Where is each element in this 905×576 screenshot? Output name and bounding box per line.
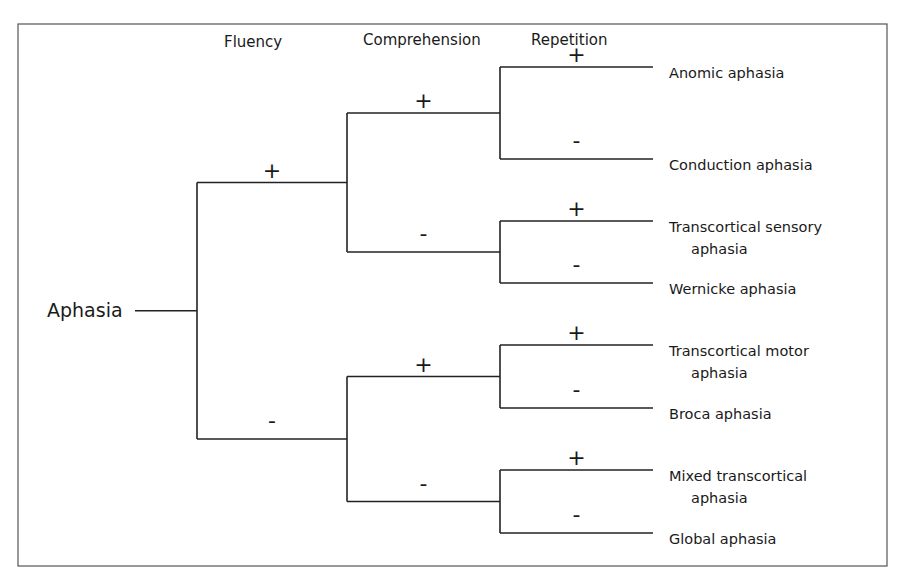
- leaf-label: Wernicke aphasia: [669, 281, 796, 297]
- header-fluency: Fluency: [224, 33, 282, 51]
- header-comprehension: Comprehension: [363, 31, 481, 49]
- sign-minus-comprehension: -: [420, 221, 428, 246]
- sign-minus-repetition: -: [573, 377, 581, 402]
- sign-plus-comprehension: +: [414, 352, 432, 377]
- sign-plus-repetition: +: [567, 196, 585, 221]
- aphasia-decision-tree: Fluency Comprehension Repetition Aphasia…: [0, 0, 905, 576]
- leaf-label: Mixed transcortical: [669, 468, 807, 484]
- sign-minus-repetition: -: [573, 128, 581, 153]
- leaf-label-continuation: aphasia: [691, 241, 748, 257]
- sign-minus-repetition: -: [573, 252, 581, 277]
- leaf-label: Conduction aphasia: [669, 157, 813, 173]
- sign-plus-repetition: +: [567, 320, 585, 345]
- sign-plus-repetition: +: [567, 42, 585, 67]
- sign-plus-comprehension: +: [414, 88, 432, 113]
- leaf-label: Global aphasia: [669, 531, 777, 547]
- leaf-label-continuation: aphasia: [691, 365, 748, 381]
- leaf-label-continuation: aphasia: [691, 490, 748, 506]
- leaf-label: Broca aphasia: [669, 406, 772, 422]
- sign-minus-repetition: -: [573, 502, 581, 527]
- sign-plus-repetition: +: [567, 445, 585, 470]
- leaf-label: Transcortical sensory: [668, 219, 822, 235]
- sign-minus-comprehension: -: [420, 471, 428, 496]
- sign-minus-fluency: -: [268, 408, 276, 433]
- leaf-label: Transcortical motor: [668, 343, 809, 359]
- root-label-aphasia: Aphasia: [47, 299, 123, 321]
- leaf-label: Anomic aphasia: [669, 65, 784, 81]
- sign-plus-fluency: +: [263, 158, 281, 183]
